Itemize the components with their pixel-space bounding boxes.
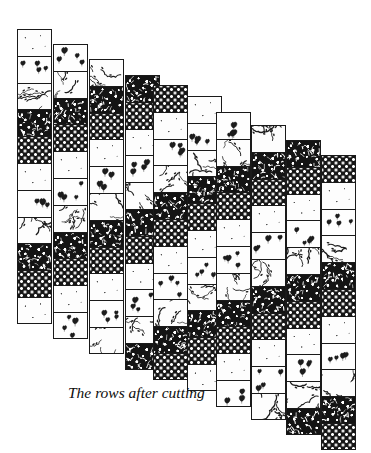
fabric-strip — [216, 112, 251, 407]
fabric-patch-vine — [90, 328, 123, 354]
fabric-patch-vine — [252, 394, 285, 420]
fabric-patch-floral — [322, 344, 355, 371]
fabric-patch-dot — [18, 271, 51, 298]
fabric-patch-mottle — [287, 141, 320, 168]
fabric-patch-floral — [154, 140, 187, 167]
fabric-patch-mottle — [54, 99, 87, 126]
fabric-patch-dot — [217, 193, 250, 220]
fabric-patch-plain — [54, 152, 87, 179]
fabric-patch-mottle — [90, 221, 123, 248]
fabric-patch-dot — [54, 125, 87, 152]
fabric-patch-vine — [54, 72, 87, 99]
fabric-patch-dot — [54, 259, 87, 286]
fabric-patch-plain — [287, 195, 320, 222]
fabric-patch-floral — [322, 210, 355, 237]
fabric-strip — [89, 59, 124, 354]
fabric-patch-floral — [252, 233, 285, 260]
fabric-patch-dot — [18, 137, 51, 164]
fabric-patch-floral — [217, 247, 250, 274]
fabric-patch-vine — [154, 300, 187, 327]
fabric-patch-vine — [90, 194, 123, 221]
fabric-patch-dot — [154, 86, 187, 113]
fabric-patch-mottle — [18, 110, 51, 137]
fabric-patch-dot — [90, 114, 123, 141]
fabric-patch-plain — [322, 317, 355, 344]
fabric-patch-dot — [217, 327, 250, 354]
figure-page: The rows after cutting — [0, 0, 371, 453]
fabric-patch-mottle — [287, 275, 320, 302]
fabric-patch-vine — [252, 126, 285, 153]
fabric-patch-floral — [54, 179, 87, 206]
fabric-patch-vine — [287, 382, 320, 409]
fabric-patch-floral — [54, 45, 87, 72]
fabric-patch-vine — [217, 274, 250, 301]
fabric-strip — [286, 140, 321, 435]
fabric-strip — [17, 29, 52, 324]
fabric-patch-mottle — [322, 397, 355, 424]
fabric-patch-plain — [252, 206, 285, 233]
fabric-patch-plain — [54, 286, 87, 313]
fabric-patch-dot — [252, 314, 285, 341]
fabric-patch-vine — [252, 260, 285, 287]
fabric-patch-dot — [154, 220, 187, 247]
fabric-patch-mottle — [18, 244, 51, 271]
fabric-patch-dot — [322, 424, 355, 450]
fabric-patch-plain — [154, 247, 187, 274]
fabric-patch-mottle — [252, 153, 285, 180]
fabric-patch-vine — [18, 218, 51, 245]
fabric-patch-mottle — [322, 263, 355, 290]
fabric-strip — [251, 125, 286, 420]
fabric-patch-dot — [322, 156, 355, 183]
fabric-patch-plain — [252, 340, 285, 367]
fabric-patch-dot — [252, 180, 285, 207]
fabric-patch-vine — [18, 84, 51, 111]
fabric-patch-vine — [54, 206, 87, 233]
fabric-patch-plain — [287, 329, 320, 356]
fabric-patch-vine — [154, 166, 187, 193]
fabric-patch-plain — [217, 354, 250, 381]
fabric-patch-mottle — [154, 193, 187, 220]
fabric-strip — [53, 44, 88, 339]
fabric-patch-floral — [18, 57, 51, 84]
fabric-patch-floral — [90, 301, 123, 328]
fabric-patch-mottle — [252, 287, 285, 314]
fabric-patch-mottle — [217, 167, 250, 194]
fabric-patch-plain — [18, 298, 51, 324]
fabric-patch-floral — [54, 313, 87, 339]
fabric-patch-mottle — [54, 233, 87, 260]
fabric-patch-plain — [18, 164, 51, 191]
fabric-patch-dot — [90, 248, 123, 275]
figure-caption: The rows after cutting — [68, 384, 205, 402]
fabric-patch-floral — [18, 191, 51, 218]
fabric-patch-mottle — [287, 409, 320, 435]
fabric-strip — [153, 85, 188, 380]
fabric-patch-plain — [90, 140, 123, 167]
fabric-patch-floral — [252, 367, 285, 394]
fabric-patch-vine — [287, 248, 320, 275]
fabric-patch-dot — [287, 168, 320, 195]
fabric-patch-mottle — [90, 87, 123, 114]
fabric-patch-floral — [287, 355, 320, 382]
fabric-patch-dot — [154, 354, 187, 380]
fabric-patch-dot — [287, 302, 320, 329]
fabric-patch-floral — [217, 381, 250, 407]
fabric-patch-floral — [217, 113, 250, 140]
fabric-patch-plain — [18, 30, 51, 57]
fabric-strip — [321, 155, 356, 450]
fabric-patch-plain — [154, 113, 187, 140]
fabric-patch-vine — [90, 60, 123, 87]
fabric-patch-floral — [90, 167, 123, 194]
fabric-patch-plain — [90, 274, 123, 301]
fabric-patch-plain — [217, 220, 250, 247]
fabric-patch-vine — [322, 370, 355, 397]
fabric-patch-plain — [322, 183, 355, 210]
fabric-patch-mottle — [217, 301, 250, 328]
fabric-patch-vine — [322, 236, 355, 263]
fabric-patch-dot — [322, 290, 355, 317]
fabric-patch-mottle — [154, 327, 187, 354]
fabric-patch-floral — [154, 274, 187, 301]
fabric-patch-vine — [217, 140, 250, 167]
fabric-patch-floral — [287, 221, 320, 248]
